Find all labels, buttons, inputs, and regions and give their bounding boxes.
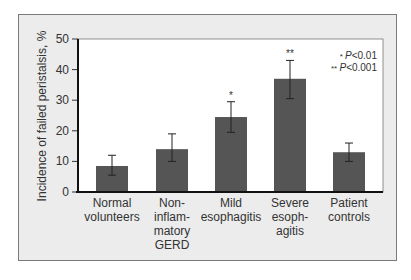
- x-category-label: Severeesoph-agitis: [271, 196, 309, 238]
- significance-marker: *: [229, 90, 233, 101]
- x-category-label: Mildesophagitis: [201, 196, 262, 224]
- x-category-label: Normalvolunteers: [84, 196, 139, 224]
- bar-chart: *** 01020304050 Incidence of failed peri…: [0, 0, 411, 280]
- y-tick-label: 40: [56, 63, 70, 77]
- y-axis: 01020304050: [56, 32, 78, 199]
- significance-marker: **: [286, 48, 294, 59]
- y-tick-label: 30: [56, 93, 70, 107]
- y-tick-label: 0: [62, 185, 69, 199]
- x-category-label: Non-inflam-matoryGERD: [154, 196, 191, 252]
- y-tick-label: 10: [56, 154, 70, 168]
- legend-entry: * P<0.01: [340, 50, 378, 61]
- legend-entry: ** P<0.001: [331, 62, 377, 73]
- y-tick-label: 20: [56, 124, 70, 138]
- y-axis-label: Incidence of failed peristalsis, %: [35, 30, 49, 201]
- x-axis-labels: NormalvolunteersNon-inflam-matoryGERDMil…: [84, 196, 370, 252]
- y-tick-label: 50: [56, 32, 70, 46]
- x-category-label: Patientcontrols: [328, 196, 370, 224]
